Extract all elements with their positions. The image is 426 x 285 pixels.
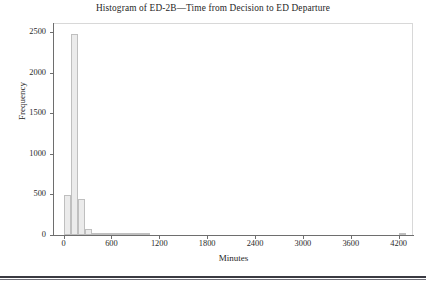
histogram-bar [78,199,85,235]
x-tick-label: 3600 [331,239,371,248]
y-tick-mark [50,194,53,195]
histogram-bar [143,233,150,235]
y-tick-label: 500 [8,189,46,198]
y-tick-mark [50,73,53,74]
y-tick-mark [50,235,53,236]
page-bottom-rule-secondary [0,279,426,280]
histogram-bar [128,233,135,235]
y-tick-label: 2000 [8,68,46,77]
histogram-bar [64,195,71,235]
histogram-bar [135,233,142,235]
x-tick-label: 1800 [187,239,227,248]
y-tick-mark [50,32,53,33]
y-tick-mark [50,154,53,155]
histogram-bar [85,229,92,235]
histogram-figure: Histogram of ED-2B—Time from Decision to… [0,0,426,285]
y-tick-label: 0 [8,230,46,239]
x-tick-label: 1200 [139,239,179,248]
y-tick-mark [50,113,53,114]
histogram-bar [121,233,128,235]
histogram-bar [92,233,99,235]
histogram-bar [399,233,406,235]
x-tick-label: 600 [91,239,131,248]
x-tick-label: 4200 [379,239,419,248]
chart-title: Histogram of ED-2B—Time from Decision to… [0,3,426,13]
x-axis-label: Minutes [53,253,414,263]
histogram-bar [99,233,106,235]
y-tick-label: 2500 [8,27,46,36]
histogram-bar [71,34,78,235]
x-tick-label: 0 [44,239,84,248]
x-tick-label: 2400 [235,239,275,248]
y-axis-label: Frequency [17,51,27,151]
page-bottom-rule [0,276,426,278]
histogram-bar [114,233,121,235]
histogram-bar [107,233,114,235]
x-tick-label: 3000 [283,239,323,248]
y-tick-label: 1000 [8,149,46,158]
y-tick-label: 1500 [8,108,46,117]
histogram-bars [54,24,413,235]
x-axis-spine [53,235,414,236]
